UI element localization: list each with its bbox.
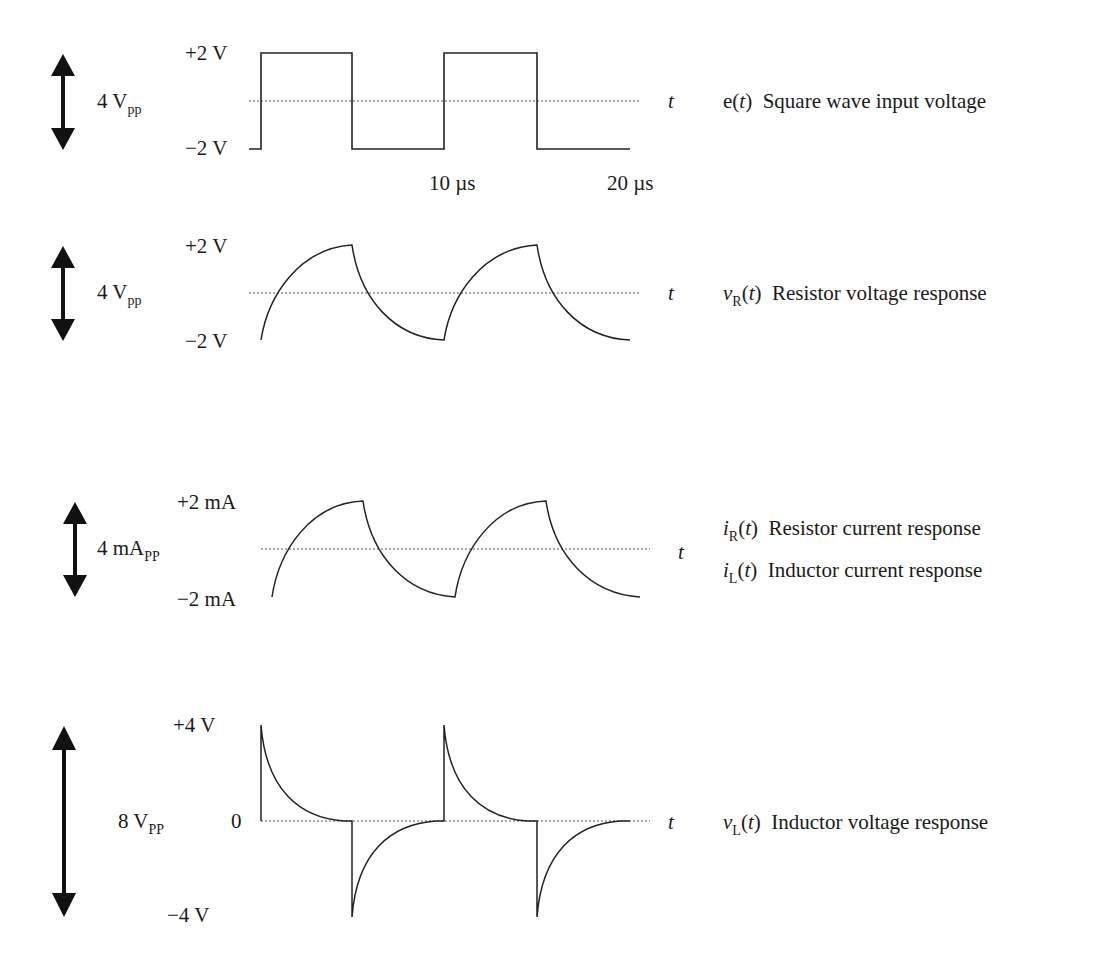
y-min-label: −2 mA [177,589,236,610]
t-axis-label: t [668,812,674,833]
x-tick-10us: 10 µs [429,173,476,194]
fn-name: v [723,281,732,305]
fn-sub: L [732,823,741,838]
y-zero-label: 0 [231,811,242,832]
amplitude-label: 4 mAPP [97,538,160,564]
t-axis-label: t [668,91,674,112]
y-max-label: +2 mA [177,492,236,513]
amplitude-sub: pp [128,293,142,308]
double-arrow-icon [52,726,76,917]
y-max-label: +2 V [185,43,227,64]
legend-text: Resistor current response [769,516,981,540]
amplitude-value: 4 V [97,89,128,113]
legend-text: Inductor voltage response [771,810,988,834]
legend-text: Resistor voltage response [772,281,987,305]
y-min-label: −4 V [167,905,209,926]
amplitude-value: 4 V [97,280,128,304]
legend-e: e(t) Square wave input voltage [723,91,986,112]
double-arrow-icon [51,246,75,341]
amplitude-value: 4 mA [97,536,144,560]
legend-text: Inductor current response [768,558,983,582]
y-min-label: −2 V [185,331,227,352]
y-max-label: +4 V [173,715,215,736]
amplitude-value: 8 V [118,809,149,833]
amplitude-label: 4 Vpp [97,91,142,117]
amplitude-sub: PP [149,822,165,837]
double-arrow-icon [63,502,87,597]
legend-text: Square wave input voltage [763,89,986,113]
fn-sub: L [729,571,738,586]
t-axis-label: t [668,283,674,304]
amplitude-label: 4 Vpp [97,282,142,308]
amplitude-sub: PP [144,549,160,564]
amplitude-sub: pp [128,102,142,117]
fn-name: e [723,89,732,113]
x-tick-20us: 20 µs [607,173,654,194]
legend-vl: vL(t) Inductor voltage response [723,812,988,838]
legend-ir: iR(t) Resistor current response [723,518,981,544]
amplitude-label: 8 VPP [118,811,164,837]
fn-arg: t [744,558,750,582]
fn-sub: R [732,294,741,309]
y-max-label: +2 V [185,236,227,257]
fn-arg: t [739,89,745,113]
legend-il: iL(t) Inductor current response [723,560,982,586]
current-trace [272,501,640,597]
legend-vr: vR(t) Resistor voltage response [723,283,987,309]
fn-name: v [723,810,732,834]
y-min-label: −2 V [185,138,227,159]
fn-arg: t [748,810,754,834]
double-arrow-icon [51,54,75,150]
t-axis-label: t [678,542,684,563]
fn-sub: R [729,529,738,544]
fn-arg: t [749,281,755,305]
fn-arg: t [745,516,751,540]
